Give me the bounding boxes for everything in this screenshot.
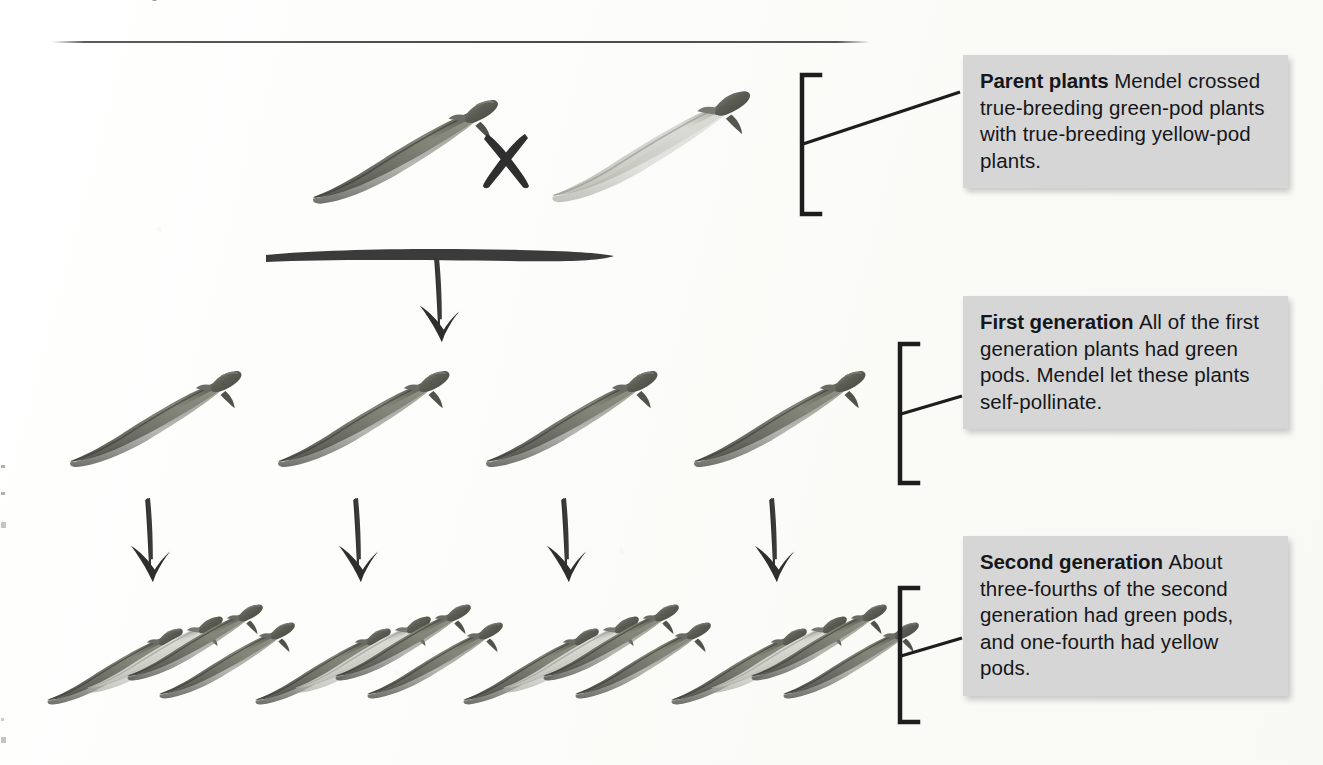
caption-second-generation: Second generation About three-fourths of… (963, 536, 1288, 696)
f1-pod-1 (69, 371, 241, 467)
page-edge-mark (1, 737, 6, 743)
f2-cluster-4 (671, 604, 919, 704)
self-pollinate-arrow-1 (131, 498, 170, 582)
caption-parent-plants: Parent plants Mendel crossed true-breedi… (963, 55, 1288, 188)
cross-bar (266, 249, 614, 262)
caption-heading-second-generation: Second generation (980, 550, 1168, 573)
bracket-first-generation (900, 344, 962, 483)
f1-pod-2 (277, 371, 449, 467)
cross-down-arrow (420, 258, 459, 342)
bracket-second-generation (900, 588, 962, 722)
caption-heading-first-generation: First generation (980, 310, 1139, 333)
page-edge-mark (1, 718, 4, 721)
caption-first-generation: First generation All of the first genera… (963, 296, 1288, 429)
f1-pod-4 (693, 371, 865, 467)
diagram-canvas: Parent plants Mendel crossed true-breedi… (0, 0, 1323, 765)
f2-cluster-2 (255, 604, 503, 704)
page-edge-mark (1, 465, 5, 468)
f2-cluster-1 (47, 604, 295, 704)
self-pollinate-arrow-3 (547, 498, 586, 582)
f1-pod-3 (485, 371, 657, 467)
cross-symbol (483, 134, 529, 188)
self-pollinate-arrow-2 (339, 498, 378, 582)
caption-heading-parent-plants: Parent plants (980, 69, 1114, 92)
page-edge-mark (1, 492, 5, 495)
self-pollinate-arrow-4 (755, 498, 794, 582)
f2-cluster-3 (463, 604, 711, 704)
parent-pod-yellow (552, 91, 750, 202)
parent-pod-green (312, 100, 498, 204)
page-edge-mark (1, 522, 6, 528)
bracket-parents (802, 75, 960, 214)
